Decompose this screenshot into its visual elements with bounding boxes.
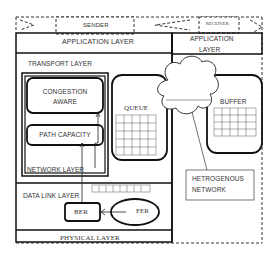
hetrogenous-network-label-2: NETWORK (192, 186, 226, 193)
physical-layer-label: PHYSICAL LAYER (60, 234, 120, 242)
congestion-aware-label-1: CONGESTION (27, 88, 103, 95)
buffer-label: BUFFER (220, 98, 247, 105)
receiver-label: RECEIVER (206, 21, 229, 26)
congestion-aware-label-2: AWARE (27, 98, 103, 105)
receiver-application-label-1: APPLICATION (190, 35, 234, 42)
congestion-aware-box (27, 78, 103, 113)
path-capacity-label: PATH CAPACITY (27, 131, 103, 138)
transport-layer-label: TRANSPORT LAYER (28, 60, 92, 67)
network-cloud (158, 56, 219, 114)
hetrogenous-network-label-1: HETROGENOUS (192, 175, 244, 182)
queue-grid (116, 115, 156, 155)
callout-pointer (192, 112, 207, 170)
data-link-layer-label: DATA LINK LAYER (23, 192, 79, 199)
buffer-grid (214, 108, 256, 136)
network-to-congestion-arrow (95, 113, 98, 168)
ber-label: BER (74, 208, 88, 216)
network-layer-label: NETWORK LAYER (27, 166, 84, 173)
dashed-arrow-right (250, 20, 262, 32)
queue-label: QUEUE (124, 104, 148, 112)
dashed-arrow-mid (155, 20, 190, 30)
datalink-grid (92, 185, 150, 192)
application-layer-label: APPLICATION LAYER (62, 38, 134, 45)
sender-label: SENDER (83, 22, 109, 28)
dashed-arrow-left (20, 20, 34, 30)
fer-label: FER (136, 207, 149, 215)
receiver-application-label-2: LAYER (199, 46, 220, 53)
